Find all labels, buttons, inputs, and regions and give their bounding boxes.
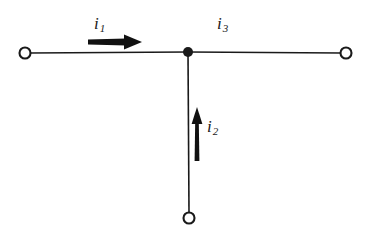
current-subscript-i1: 1	[99, 22, 106, 34]
wire-bottom-branch	[188, 52, 189, 213]
wire-right-branch	[188, 52, 341, 53]
current-subscript-i2: 2	[212, 125, 219, 137]
circuit-diagram: i1 i3 i2	[0, 0, 371, 240]
current-label-i3: i3	[217, 15, 228, 32]
terminal-right	[341, 48, 352, 59]
junction-node	[183, 47, 193, 57]
wire-left-branch	[30, 52, 188, 53]
current-label-i1: i1	[94, 15, 105, 32]
terminal-left	[20, 48, 31, 59]
current-label-i2: i2	[207, 118, 218, 135]
terminal-bottom	[184, 213, 195, 224]
current-arrow-i2	[192, 107, 203, 161]
current-arrow-i1	[88, 35, 142, 50]
circuit-canvas	[0, 0, 371, 240]
current-subscript-i3: 3	[222, 22, 229, 34]
